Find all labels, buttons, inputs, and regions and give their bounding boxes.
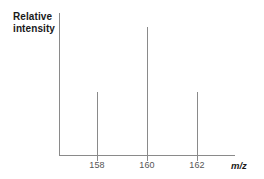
peak-160 — [147, 27, 148, 155]
peak-158 — [97, 92, 98, 155]
mass-spectrum-figure: Relative intensity 158160162 m/z — [0, 0, 264, 179]
x-axis-tick-label-160: 160 — [127, 160, 167, 170]
y-axis-label-line-1: Relative — [13, 11, 57, 23]
x-axis-tick-label-158: 158 — [77, 160, 117, 170]
y-axis-line — [59, 13, 60, 155]
x-axis-tick-label-162: 162 — [177, 160, 217, 170]
y-axis-label: Relative intensity — [13, 11, 57, 35]
x-axis-label: m/z — [231, 160, 247, 171]
y-axis-label-line-2: intensity — [13, 23, 57, 35]
peak-162 — [197, 92, 198, 155]
